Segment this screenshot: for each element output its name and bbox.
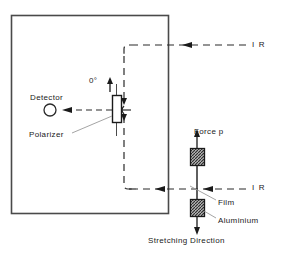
detector-label: Detector	[30, 94, 63, 102]
force-label: Force p	[194, 128, 224, 136]
polarizer-element	[113, 96, 122, 123]
ir-beam-label-bottom: I R	[252, 184, 266, 192]
clamp-upper	[191, 149, 205, 166]
beam-arrow-bottom-right	[203, 186, 213, 192]
polarizer-leader-line	[72, 116, 112, 133]
stretching-direction-label: Stretching Direction	[148, 237, 225, 245]
detector-icon	[44, 104, 56, 116]
angle-zero-label: 0°	[89, 77, 97, 85]
beam-top-corner	[124, 45, 136, 56]
beam-arrow-detector	[62, 107, 72, 113]
polarizer-label: Polarizer	[29, 131, 64, 139]
figure-container: Detector Polarizer 0° I R I R Force p Fi…	[0, 0, 282, 253]
aluminium-leader-line	[204, 211, 216, 218]
beam-arrow-top	[182, 42, 192, 48]
aluminium-label: Aluminium	[218, 217, 259, 225]
angle-reference-arrowhead	[107, 77, 113, 84]
film-label: Film	[218, 199, 235, 207]
stretch-arrowhead	[194, 227, 200, 235]
beam-descend-lower	[124, 116, 136, 189]
clamp-lower	[191, 200, 205, 217]
beam-arrow-bottom-left	[155, 186, 165, 192]
ir-beam-label-top: I R	[252, 41, 266, 49]
